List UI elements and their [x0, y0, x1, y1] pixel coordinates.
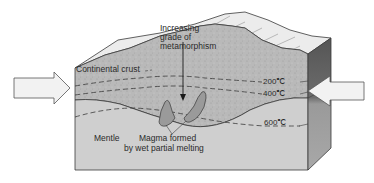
diagram-canvas: Continental crust Increasing grade of me… [0, 0, 374, 183]
magma-label-line2: by wet partial melting [124, 144, 204, 153]
left-compression-arrow [14, 72, 70, 104]
mantle-label: Mentle [94, 134, 120, 143]
continental-crust-label: Continental crust [76, 65, 140, 74]
metamorphism-label-line3: metamorphism [160, 42, 216, 51]
isotherm-600-label: 600℃ [264, 118, 286, 127]
isotherm-400-label: 400℃ [263, 89, 285, 98]
isotherm-200-label: 200℃ [263, 77, 285, 86]
magma-label-line1: Magma formed [139, 134, 196, 143]
